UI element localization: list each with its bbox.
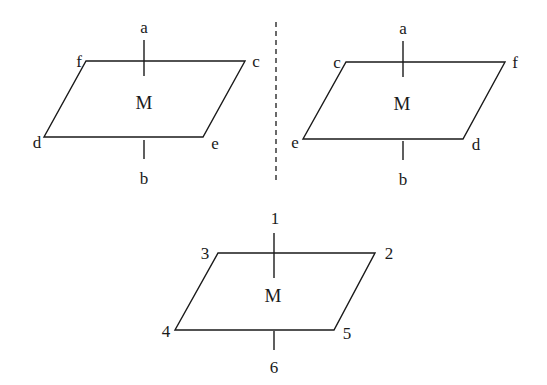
bottom-label-bottom-right: 5 [343, 324, 352, 343]
right-label-top-left: c [333, 53, 341, 72]
left-label-top: a [140, 18, 148, 37]
bottom-label-center: M [265, 285, 282, 306]
bottom-label-top: 1 [271, 209, 280, 228]
left-label-bottom-right: e [211, 134, 219, 153]
left-label-bottom-left: d [33, 133, 42, 152]
bottom-label-bottom-left: 4 [162, 322, 171, 341]
left-label-top-right: c [252, 52, 260, 71]
bottom-figure: 1 3 2 M 4 5 6 [162, 209, 394, 377]
bottom-label-top-right: 2 [385, 244, 394, 263]
right-label-bottom-right: d [472, 135, 481, 154]
right-label-center: M [394, 93, 411, 114]
bottom-label-bottom: 6 [270, 358, 279, 377]
left-label-bottom: b [140, 169, 149, 188]
diagram-canvas: a f c M d e b a c f M e d b 1 3 2 M 4 5 … [0, 0, 547, 385]
right-figure: a c f M e d b [291, 19, 518, 189]
left-figure: a f c M d e b [33, 18, 260, 188]
left-label-center: M [136, 92, 153, 113]
bottom-label-top-left: 3 [201, 244, 210, 263]
right-label-bottom: b [399, 170, 408, 189]
right-label-bottom-left: e [291, 133, 299, 152]
left-label-top-left: f [76, 52, 82, 71]
right-label-top-right: f [512, 53, 518, 72]
right-label-top: a [399, 19, 407, 38]
